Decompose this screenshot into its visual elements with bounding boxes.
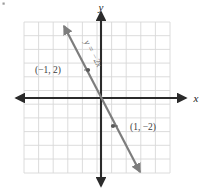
x-axis-label: x	[193, 92, 199, 104]
coordinate-plane-svg: y x (−1, 2) (1, −2) y = −2x	[0, 0, 209, 196]
point-label-negative-one-two: (−1, 2)	[35, 65, 61, 76]
graph-figure: y x (−1, 2) (1, −2) y = −2x	[0, 0, 209, 196]
scan-speck	[3, 3, 5, 5]
y-axis-label: y	[98, 1, 104, 13]
point-label-one-negative-two: (1, −2)	[130, 122, 156, 133]
